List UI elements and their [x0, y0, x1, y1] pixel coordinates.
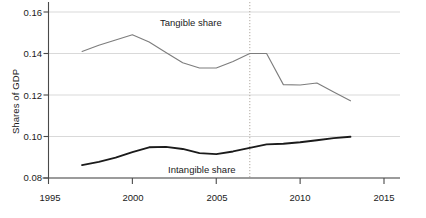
tick-marks-group [44, 12, 385, 184]
series-line-tangible-share [82, 35, 350, 101]
series-line-intangible-share [82, 137, 350, 165]
axis-lines-group [43, 2, 401, 178]
chart-figure: Shares of GDP 0.16 0.14 0.12 0.10 0.08 1… [0, 0, 426, 218]
data-series-group [82, 35, 350, 165]
plot-area [0, 0, 426, 218]
